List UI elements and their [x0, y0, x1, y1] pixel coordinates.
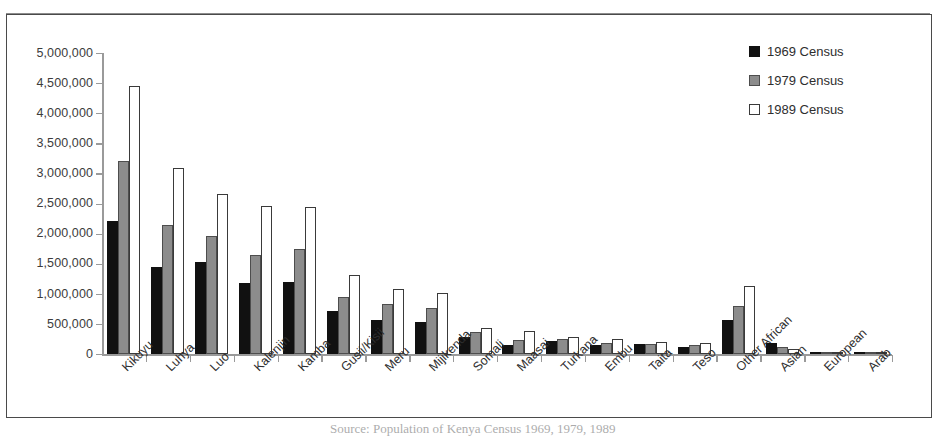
- bar: [206, 236, 217, 354]
- y-tick-text: 3,000,000: [36, 167, 102, 180]
- legend-item: 1989 Census: [749, 103, 844, 116]
- y-tick-text: 2,000,000: [36, 227, 102, 240]
- bar: [173, 168, 184, 354]
- bar: [722, 320, 733, 354]
- bar-group: [365, 53, 409, 354]
- bar: [777, 347, 788, 354]
- y-tick-text: 500,000: [47, 318, 102, 331]
- legend-label: 1969 Census: [767, 45, 844, 58]
- y-tick-text: 4,500,000: [36, 77, 102, 90]
- bar: [162, 225, 173, 354]
- bar: [217, 194, 228, 354]
- bar: [349, 275, 360, 354]
- bar-group: [102, 53, 146, 354]
- bar-group: [190, 53, 234, 354]
- bar: [415, 322, 426, 354]
- bar: [151, 267, 162, 354]
- bar: [261, 206, 272, 354]
- legend-swatch-icon: [749, 46, 760, 57]
- y-tick-text: 4,000,000: [36, 107, 102, 120]
- bar: [733, 306, 744, 354]
- bar: [645, 344, 656, 354]
- bar: [513, 340, 524, 355]
- bar: [854, 352, 865, 354]
- bar-group: [453, 53, 497, 354]
- y-tick-text: 5,000,000: [36, 47, 102, 60]
- y-tick-text: 1,000,000: [36, 288, 102, 301]
- bar-group: [278, 53, 322, 354]
- bar: [426, 308, 437, 354]
- bar: [338, 297, 349, 354]
- bar-group: [541, 53, 585, 354]
- bar: [118, 161, 129, 354]
- bar-group: [585, 53, 629, 354]
- chart-frame: 5,000,0004,500,0004,000,0003,500,0003,00…: [6, 14, 932, 418]
- bar: [129, 86, 140, 354]
- bar: [107, 221, 118, 354]
- bar: [382, 304, 393, 354]
- legend-label: 1979 Census: [767, 74, 844, 87]
- y-tick-text: 1,500,000: [36, 257, 102, 270]
- bar: [601, 343, 612, 354]
- bar: [689, 345, 700, 354]
- bar-group: [629, 53, 673, 354]
- bar: [305, 207, 316, 354]
- bar-group: [673, 53, 717, 354]
- bar-group: [234, 53, 278, 354]
- bar: [810, 352, 821, 354]
- y-tick-text: 3,500,000: [36, 137, 102, 150]
- chart-page: 5,000,0004,500,0004,000,0003,500,0003,00…: [0, 0, 948, 437]
- bar: [557, 339, 568, 354]
- caption-strip: Source: Population of Kenya Census 1969,…: [0, 424, 948, 437]
- legend-swatch-icon: [749, 75, 760, 86]
- chart-legend: 1969 Census1979 Census1989 Census: [749, 45, 844, 116]
- bar: [634, 344, 645, 354]
- bar-group: [497, 53, 541, 354]
- bar: [195, 262, 206, 354]
- bar: [239, 283, 250, 354]
- x-tick-mark: [234, 355, 235, 362]
- y-tick-mark: [96, 354, 103, 355]
- bar: [865, 352, 876, 354]
- bar-group: [409, 53, 453, 354]
- bar: [678, 347, 689, 354]
- y-tick-text: 2,500,000: [36, 197, 102, 210]
- legend-swatch-icon: [749, 104, 760, 115]
- bar-group: [146, 53, 190, 354]
- bar: [294, 249, 305, 354]
- caption-partial: Source: Population of Kenya Census 1969,…: [330, 424, 616, 437]
- legend-item: 1979 Census: [749, 74, 844, 87]
- bar-group: [321, 53, 365, 354]
- legend-item: 1969 Census: [749, 45, 844, 58]
- legend-label: 1989 Census: [767, 103, 844, 116]
- bar: [250, 255, 261, 354]
- bar-group: [848, 53, 892, 354]
